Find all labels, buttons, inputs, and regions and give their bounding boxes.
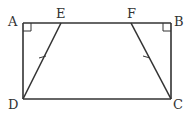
right-angle-marker-B [163,23,171,31]
point-label-A: A [7,14,18,29]
equal-tick-DE [39,56,46,58]
point-label-B: B [174,14,184,29]
segment-DE [23,23,61,99]
point-label-C: C [173,97,183,112]
geometry-diagram: A E F B D C [0,0,189,114]
diagram-canvas: A E F B D C [0,0,189,114]
point-label-D: D [8,97,18,112]
point-label-E: E [56,6,66,21]
right-angle-marker-A [23,23,31,31]
point-label-F: F [127,6,136,21]
segment-CF [131,23,171,99]
